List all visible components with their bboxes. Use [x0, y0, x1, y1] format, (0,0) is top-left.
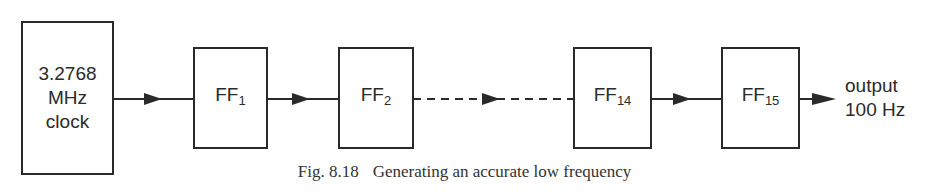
clock-frequency-text: 3.2768	[23, 62, 112, 86]
arrow-icon	[482, 93, 500, 105]
ff2-label: FF2	[340, 83, 412, 113]
flip-flop-ff14: FF14	[573, 47, 652, 149]
arrow-icon	[673, 93, 691, 105]
flip-flop-ff2: FF2	[338, 47, 414, 149]
clock-word-text: clock	[23, 110, 112, 134]
output-frequency-text: 100 Hz	[845, 98, 905, 122]
arrow-icon	[292, 93, 310, 105]
flip-flop-ff1: FF1	[193, 47, 268, 149]
output-label: output 100 Hz	[845, 74, 905, 122]
ff1-label: FF1	[195, 83, 266, 113]
arrow-icon	[144, 93, 162, 105]
output-word-text: output	[845, 74, 905, 98]
figure-caption: Fig. 8.18Generating an accurate low freq…	[0, 162, 929, 182]
clock-label: 3.2768 MHz clock	[23, 62, 112, 134]
flip-flop-ff15: FF15	[721, 47, 800, 149]
figure-caption-text: Generating an accurate low frequency	[373, 162, 632, 181]
arrow-icon	[812, 93, 836, 105]
clock-block: 3.2768 MHz clock	[21, 21, 114, 175]
clock-unit-text: MHz	[23, 86, 112, 110]
ff14-label: FF14	[575, 83, 650, 113]
figure-number: Fig. 8.18	[298, 162, 359, 181]
ff15-label: FF15	[723, 83, 798, 113]
